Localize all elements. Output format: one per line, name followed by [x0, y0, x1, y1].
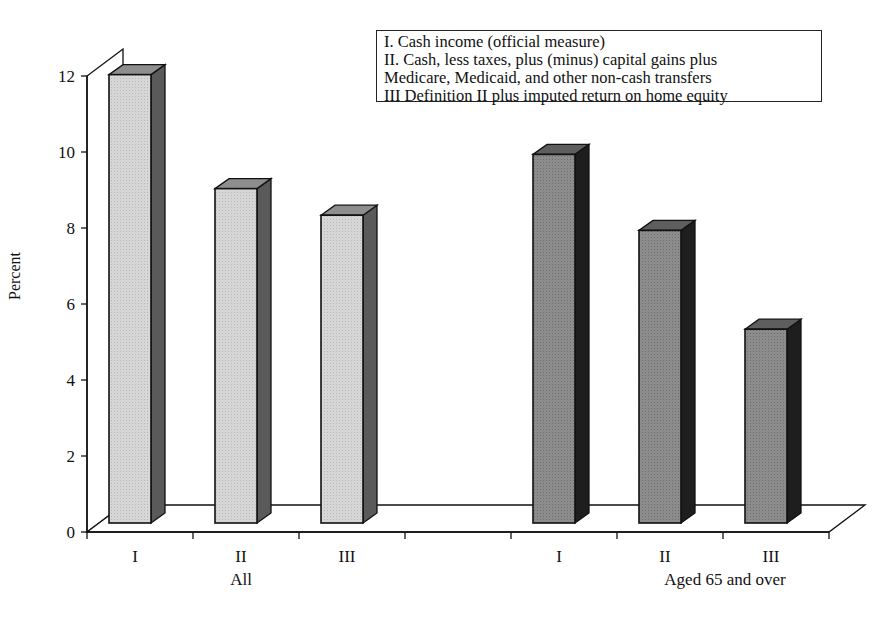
svg-text:III: III [339, 547, 356, 566]
svg-text:III: III [763, 547, 780, 566]
legend-line-1: I. Cash income (official measure) [384, 33, 821, 51]
bar [109, 65, 165, 523]
svg-text:II: II [659, 547, 671, 566]
bar [533, 144, 589, 523]
svg-text:12: 12 [58, 67, 75, 86]
svg-text:I: I [556, 547, 562, 566]
legend-line-2: II. Cash, less taxes, plus (minus) capit… [384, 51, 821, 69]
svg-text:I: I [132, 547, 138, 566]
legend-box: I. Cash income (official measure) II. Ca… [376, 30, 822, 102]
svg-text:Aged 65 and over: Aged 65 and over [664, 570, 786, 589]
bar [215, 179, 271, 523]
svg-text:II: II [235, 547, 247, 566]
svg-text:6: 6 [67, 295, 76, 314]
legend-line-3: Medicare, Medicaid, and other non-cash t… [384, 69, 821, 87]
bar [639, 220, 695, 523]
bar [745, 319, 801, 523]
chart-bars [109, 65, 801, 523]
svg-text:10: 10 [58, 143, 75, 162]
svg-text:All: All [230, 570, 252, 589]
bar [321, 205, 377, 523]
legend-line-4: III Definition II plus imputed return on… [384, 87, 821, 105]
svg-text:0: 0 [67, 523, 76, 542]
svg-text:4: 4 [67, 371, 76, 390]
y-axis-label: Percent [6, 252, 24, 300]
svg-text:2: 2 [67, 447, 76, 466]
svg-text:8: 8 [67, 219, 76, 238]
